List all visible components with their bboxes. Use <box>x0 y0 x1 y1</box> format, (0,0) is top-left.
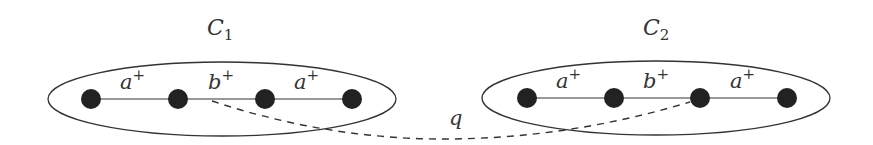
node-c2-2 <box>604 88 624 108</box>
edge-c2-1-label: a+ <box>556 65 581 93</box>
node-c1-2 <box>168 89 188 109</box>
cluster-c1-label: C1 <box>207 15 233 44</box>
edge-c1-3-label: a+ <box>294 66 319 94</box>
cluster-c2: C2 a+ b+ a+ <box>482 15 830 135</box>
path-q-label: q <box>449 106 462 130</box>
cluster-c1: C1 a+ b+ a+ <box>48 15 396 136</box>
node-c2-4 <box>777 88 797 108</box>
node-c1-1 <box>81 89 101 109</box>
cluster-path-diagram: C1 a+ b+ a+ C2 a+ b+ a+ <box>0 0 873 145</box>
edge-c1-1-label: a+ <box>120 66 145 94</box>
cluster-c2-label: C2 <box>643 15 669 44</box>
edge-c2-2-label: b+ <box>643 65 669 93</box>
node-c1-3 <box>255 89 275 109</box>
node-c2-1 <box>517 88 537 108</box>
edge-c1-2-label: b+ <box>208 66 234 94</box>
node-c1-4 <box>342 89 362 109</box>
node-c2-3 <box>690 88 710 108</box>
edge-c2-3-label: a+ <box>730 65 755 93</box>
